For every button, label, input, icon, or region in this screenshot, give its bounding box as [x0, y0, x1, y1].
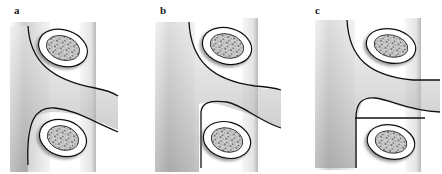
- panel-c-illustration: [295, 0, 442, 174]
- panel-c: c: [295, 0, 442, 174]
- panel-b-illustration: [147, 0, 294, 174]
- panel-a-illustration: [0, 0, 147, 174]
- panel-a: a: [0, 0, 147, 174]
- panel-b: b: [147, 0, 294, 174]
